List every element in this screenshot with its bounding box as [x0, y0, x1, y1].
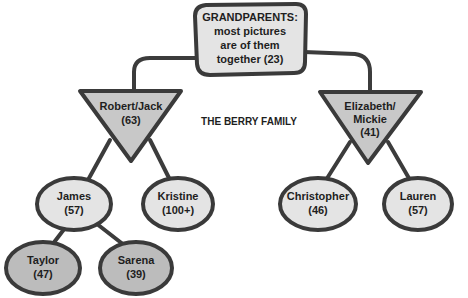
parent-count: (63)	[121, 114, 141, 126]
connector-elizabeth-to-christopher	[326, 142, 350, 180]
child-count: (100+)	[162, 204, 194, 216]
grandparents-line-2: most pictures	[214, 25, 286, 37]
grandchild-count: (39)	[126, 268, 146, 280]
grandparents-line-1: GRANDPARENTS:	[202, 11, 298, 23]
connector-james-to-sarena	[97, 224, 124, 245]
connector-robert-to-james	[88, 140, 110, 180]
parent-node-elizabeth-mickie: Elizabeth/ Mickie (41)	[320, 92, 421, 163]
grandchild-name: Taylor	[27, 254, 60, 266]
child-count: (46)	[308, 204, 328, 216]
child-name: Kristine	[158, 190, 199, 202]
parent-name-line-1: Elizabeth/	[344, 100, 395, 112]
child-name: Lauren	[400, 190, 437, 202]
child-node-kristine: Kristine (100+)	[143, 178, 213, 230]
child-node-lauren: Lauren (57)	[384, 178, 452, 230]
connector-elizabeth-to-lauren	[388, 142, 410, 180]
child-node-james: James (57)	[37, 178, 111, 230]
grandchild-node-taylor: Taylor (47)	[6, 242, 80, 294]
connector-root-to-elizabeth	[304, 52, 370, 92]
connector-robert-to-kristine	[150, 140, 170, 180]
family-tree-diagram: GRANDPARENTS: most pictures are of them …	[0, 0, 468, 298]
grandparents-node: GRANDPARENTS: most pictures are of them …	[195, 4, 306, 75]
grandchild-name: Sarena	[118, 254, 156, 266]
parent-name-line-2: Mickie	[353, 113, 387, 125]
grandparents-line-3: are of them	[220, 39, 280, 51]
child-node-christopher: Christopher (46)	[280, 178, 356, 230]
grandchild-count: (47)	[33, 268, 53, 280]
parent-name: Robert/Jack	[100, 100, 164, 112]
child-count: (57)	[64, 204, 84, 216]
child-count: (57)	[408, 204, 428, 216]
child-name: James	[57, 190, 91, 202]
parent-count: (41)	[360, 126, 380, 138]
grandchild-node-sarena: Sarena (39)	[100, 242, 172, 294]
grandparents-line-4: together (23)	[217, 53, 284, 65]
connector-root-to-robert	[134, 58, 196, 92]
child-name: Christopher	[287, 190, 350, 202]
diagram-title: THE BERRY FAMILY	[201, 116, 297, 127]
parent-node-robert-jack: Robert/Jack (63)	[80, 91, 181, 161]
